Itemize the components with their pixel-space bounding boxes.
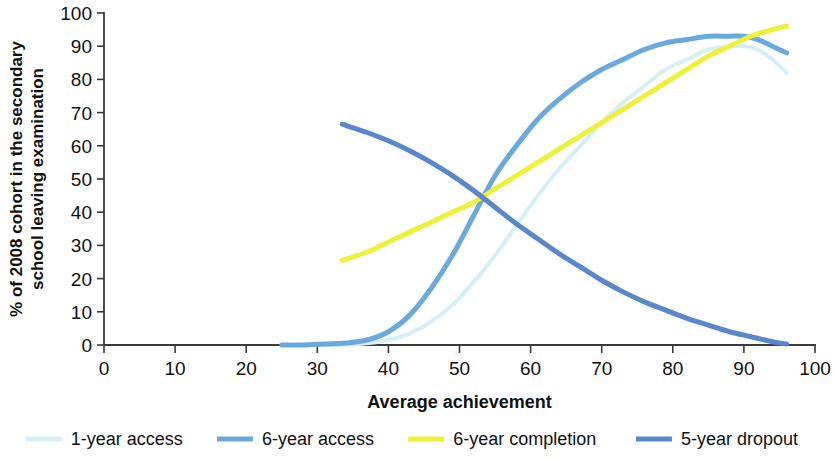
legend-label: 1-year access xyxy=(71,429,183,449)
x-tick-label: 80 xyxy=(662,358,683,379)
series-lines xyxy=(282,26,787,345)
legend-item[interactable]: 6-year completion xyxy=(408,429,596,449)
y-tick-label: 0 xyxy=(81,335,92,356)
legend-label: 6-year completion xyxy=(453,429,596,449)
x-tick-label: 30 xyxy=(307,358,328,379)
series-line-1-year-access xyxy=(324,46,786,345)
legend: 1-year access6-year access6-year complet… xyxy=(26,429,798,449)
x-tick-label: 60 xyxy=(520,358,541,379)
x-tick-label: 70 xyxy=(591,358,612,379)
y-tick-label: 70 xyxy=(71,103,92,124)
y-tick-label: 60 xyxy=(71,136,92,157)
y-tick-label: 80 xyxy=(71,69,92,90)
x-axis-title: Average achievement xyxy=(367,392,551,412)
tick-labels: 0102030405060708090100010203040506070809… xyxy=(60,3,831,379)
x-tick-label: 90 xyxy=(733,358,754,379)
y-tick-label: 10 xyxy=(71,302,92,323)
x-tick-label: 20 xyxy=(236,358,257,379)
series-line-6-year-access xyxy=(282,36,787,345)
y-tick-label: 20 xyxy=(71,269,92,290)
y-axis-title: % of 2008 cohort in the secondaryschool … xyxy=(7,41,47,317)
legend-label: 6-year access xyxy=(262,429,374,449)
x-tick-label: 40 xyxy=(378,358,399,379)
x-tick-label: 50 xyxy=(449,358,470,379)
x-tick-label: 100 xyxy=(799,358,831,379)
x-tick-label: 10 xyxy=(165,358,186,379)
y-tick-label: 30 xyxy=(71,235,92,256)
series-line-6-year-completion xyxy=(342,26,786,260)
line-chart: 0102030405060708090100010203040506070809… xyxy=(0,0,834,458)
y-tick-label: 100 xyxy=(60,3,92,24)
x-tick-label: 0 xyxy=(99,358,110,379)
y-tick-label: 50 xyxy=(71,169,92,190)
y-axis-title-line-1: % of 2008 cohort in the secondary xyxy=(7,41,26,317)
legend-item[interactable]: 6-year access xyxy=(217,429,374,449)
chart-figure: 0102030405060708090100010203040506070809… xyxy=(0,0,834,458)
y-tick-label: 90 xyxy=(71,36,92,57)
y-axis-title-line-2: school leaving examination xyxy=(28,68,47,290)
y-tick-label: 40 xyxy=(71,202,92,223)
legend-label: 5-year dropout xyxy=(681,429,798,449)
legend-item[interactable]: 5-year dropout xyxy=(636,429,798,449)
legend-item[interactable]: 1-year access xyxy=(26,429,183,449)
